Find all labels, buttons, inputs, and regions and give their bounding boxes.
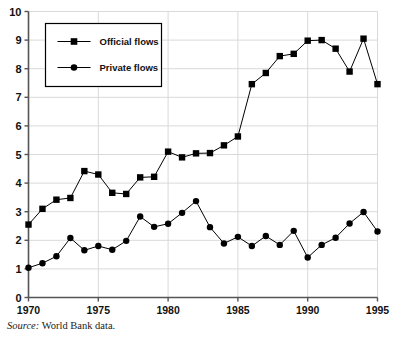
data-point-marker xyxy=(95,171,101,177)
data-point-marker xyxy=(123,191,129,197)
legend-label: Private flows xyxy=(100,62,159,73)
source-text: World Bank data. xyxy=(42,320,116,331)
y-tick-label: 1 xyxy=(15,263,21,275)
x-tick-label: 1985 xyxy=(226,304,250,316)
series-private-flows xyxy=(25,198,380,271)
data-point-marker xyxy=(137,213,143,219)
data-point-marker xyxy=(249,81,255,87)
data-point-marker xyxy=(165,221,171,227)
y-tick-label: 4 xyxy=(15,177,22,189)
x-tick-label: 1995 xyxy=(366,304,390,316)
legend-label: Official flows xyxy=(100,36,159,47)
data-point-marker xyxy=(221,142,227,148)
data-point-marker xyxy=(207,150,213,156)
y-tick-label: 5 xyxy=(15,149,21,161)
y-tick-label: 2 xyxy=(15,234,21,246)
data-point-marker xyxy=(137,174,143,180)
data-point-marker xyxy=(332,235,338,241)
data-point-marker xyxy=(151,174,157,180)
flows-line-chart: 012345678910197019751980198519901995Offi… xyxy=(0,0,393,337)
data-point-marker xyxy=(277,53,283,59)
y-axis-ticks: 012345678910 xyxy=(9,6,28,304)
data-point-marker xyxy=(318,242,324,248)
data-point-marker xyxy=(25,265,31,271)
x-tick-label: 1970 xyxy=(17,304,41,316)
chart-figure: 012345678910197019751980198519901995Offi… xyxy=(0,0,393,337)
data-point-marker xyxy=(123,238,129,244)
legend-sample-marker xyxy=(71,38,78,45)
data-point-marker xyxy=(81,247,87,253)
data-point-marker xyxy=(277,242,283,248)
chart-legend: Official flowsPrivate flows xyxy=(46,24,162,87)
legend-box xyxy=(46,24,162,87)
data-point-marker xyxy=(95,243,101,249)
x-tick-label: 1990 xyxy=(296,304,320,316)
data-point-marker xyxy=(109,190,115,196)
data-point-marker xyxy=(151,224,157,230)
y-tick-label: 7 xyxy=(15,91,21,103)
x-tick-label: 1975 xyxy=(87,304,111,316)
data-point-marker xyxy=(235,234,241,240)
y-tick-label: 6 xyxy=(15,120,21,132)
x-axis-ticks: 197019751980198519901995 xyxy=(17,298,390,316)
data-point-marker xyxy=(263,70,269,76)
data-point-marker xyxy=(109,247,115,253)
data-point-marker xyxy=(193,198,199,204)
data-point-marker xyxy=(193,150,199,156)
data-point-marker xyxy=(305,37,311,43)
data-point-marker xyxy=(291,228,297,234)
data-point-marker xyxy=(221,240,227,246)
data-point-marker xyxy=(53,253,59,259)
data-point-marker xyxy=(67,195,73,201)
source-note: Source: World Bank data. xyxy=(7,320,115,331)
data-point-marker xyxy=(332,45,338,51)
data-point-marker xyxy=(165,148,171,154)
series-line xyxy=(29,201,378,268)
data-point-marker xyxy=(318,37,324,43)
y-tick-label: 0 xyxy=(15,292,21,304)
data-point-marker xyxy=(291,51,297,57)
data-point-marker xyxy=(374,81,380,87)
data-point-marker xyxy=(346,220,352,226)
data-point-marker xyxy=(305,254,311,260)
y-tick-label: 9 xyxy=(15,34,21,46)
data-point-marker xyxy=(179,154,185,160)
x-tick-label: 1980 xyxy=(156,304,180,316)
data-point-marker xyxy=(81,168,87,174)
legend-sample-marker xyxy=(71,64,78,71)
data-point-marker xyxy=(360,35,366,41)
data-point-marker xyxy=(346,68,352,74)
data-point-marker xyxy=(25,221,31,227)
data-point-marker xyxy=(39,260,45,266)
source-prefix: Source: xyxy=(7,320,39,331)
data-point-marker xyxy=(39,206,45,212)
y-tick-label: 3 xyxy=(15,206,21,218)
data-point-marker xyxy=(207,224,213,230)
data-point-marker xyxy=(263,233,269,239)
data-point-marker xyxy=(374,228,380,234)
data-point-marker xyxy=(235,133,241,139)
y-tick-label: 10 xyxy=(9,6,21,18)
data-point-marker xyxy=(67,235,73,241)
data-point-marker xyxy=(249,243,255,249)
y-tick-label: 8 xyxy=(15,63,21,75)
data-point-marker xyxy=(179,210,185,216)
data-point-marker xyxy=(53,196,59,202)
data-point-marker xyxy=(360,209,366,215)
